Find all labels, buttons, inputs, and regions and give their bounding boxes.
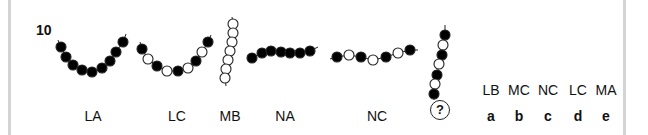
white-bead-icon <box>220 73 230 83</box>
figure-label-nc: NC <box>367 108 387 124</box>
option-code-e: MA <box>596 82 617 98</box>
figure-unknown-beads <box>429 25 450 100</box>
figure-na-beads <box>247 46 318 63</box>
black-bead-icon <box>429 89 439 99</box>
figure-nc-beads <box>330 45 418 65</box>
option-code-b: MC <box>508 82 530 98</box>
black-bead-icon <box>97 63 107 73</box>
white-bead-icon <box>344 50 354 60</box>
black-bead-icon <box>305 46 315 56</box>
white-bead-icon <box>221 64 231 74</box>
figure-label-na: NA <box>275 108 294 124</box>
option-code-d: LC <box>569 82 587 98</box>
white-bead-icon <box>434 59 444 69</box>
black-bead-icon <box>440 30 450 40</box>
figure-mb-beads <box>220 17 238 86</box>
black-bead-icon <box>276 47 286 57</box>
black-bead-icon <box>137 44 147 54</box>
option-code-a: LB <box>482 82 499 98</box>
black-bead-icon <box>432 70 442 80</box>
black-bead-icon <box>111 47 121 57</box>
black-bead-icon <box>87 67 97 77</box>
black-bead-icon <box>295 48 305 58</box>
black-bead-icon <box>285 48 295 58</box>
white-bead-icon <box>430 79 440 89</box>
option-code-c: NC <box>538 82 558 98</box>
black-bead-icon <box>61 52 71 62</box>
white-bead-icon <box>162 66 172 76</box>
figure-label-mb: MB <box>220 108 241 124</box>
black-bead-icon <box>152 61 162 71</box>
black-bead-icon <box>68 60 78 70</box>
figure-label-lc: LC <box>168 108 186 124</box>
white-bead-icon <box>223 55 233 65</box>
figure-label-la: LA <box>84 108 101 124</box>
option-b[interactable]: b <box>515 108 524 124</box>
figure-la-beads <box>56 34 128 77</box>
white-bead-icon <box>368 55 378 65</box>
black-bead-icon <box>266 46 276 56</box>
black-bead-icon <box>105 56 115 66</box>
black-bead-icon <box>247 53 257 63</box>
option-e[interactable]: e <box>602 108 610 124</box>
black-bead-icon <box>77 65 87 75</box>
white-bead-icon <box>143 54 153 64</box>
black-bead-icon <box>381 52 391 62</box>
white-bead-icon <box>228 28 238 38</box>
white-bead-icon <box>393 48 403 58</box>
white-bead-icon <box>227 37 237 47</box>
white-bead-icon <box>225 46 235 56</box>
black-bead-icon <box>56 42 66 52</box>
black-bead-icon <box>203 37 213 47</box>
white-bead-icon <box>197 47 207 57</box>
black-bead-icon <box>118 37 128 47</box>
black-bead-icon <box>173 66 183 76</box>
black-bead-icon <box>405 45 415 55</box>
question-mark-icon: ? <box>430 100 450 120</box>
black-bead-icon <box>191 56 201 66</box>
figure-lc-beads <box>137 35 213 76</box>
white-bead-icon <box>183 63 193 73</box>
option-a[interactable]: a <box>487 108 495 124</box>
black-bead-icon <box>332 52 342 62</box>
black-bead-icon <box>356 52 366 62</box>
option-d[interactable]: d <box>574 108 583 124</box>
black-bead-icon <box>257 48 267 58</box>
option-c[interactable]: c <box>544 108 552 124</box>
white-bead-icon <box>438 40 448 50</box>
